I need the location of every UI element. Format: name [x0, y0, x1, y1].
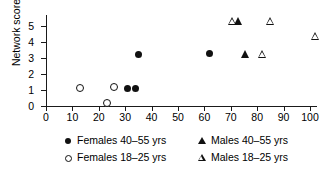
data-point [258, 50, 266, 58]
legend-label: Males 18–25 yrs [211, 152, 288, 163]
data-point [311, 32, 319, 40]
data-point [241, 50, 249, 58]
data-point [206, 50, 213, 57]
y-tick-label-1: 1 [8, 85, 34, 96]
data-point [135, 51, 142, 58]
x-axis-line [46, 106, 317, 107]
legend-label: Females 40–55 yrs [77, 135, 166, 146]
y-tick-label-4: 4 [8, 37, 34, 48]
y-tick-label-5: 5 [8, 21, 34, 32]
filled-triangle-icon [196, 135, 208, 147]
data-point [76, 84, 84, 92]
data-point [228, 17, 236, 25]
open-circle-icon [62, 152, 74, 164]
data-point [110, 83, 118, 91]
legend-item: Males 40–55 yrs [196, 132, 288, 149]
y-tick-label-0: 0 [8, 101, 34, 112]
legend-label: Females 18–25 yrs [77, 152, 166, 163]
x-tick-label-100: 100 [295, 112, 325, 123]
legend-label: Males 40–55 yrs [211, 135, 288, 146]
filled-circle-icon [62, 135, 74, 147]
chart-legend: Females 40–55 yrsFemales 18–25 yrs Males… [0, 132, 333, 168]
legend-column-males: Males 40–55 yrsMales 18–25 yrs [196, 132, 288, 166]
open-triangle-icon [196, 152, 208, 164]
plot-area [46, 17, 314, 105]
data-point [132, 85, 139, 92]
y-tick-label-3: 3 [8, 53, 34, 64]
data-point [124, 85, 131, 92]
legend-item: Males 18–25 yrs [196, 149, 288, 166]
legend-item: Females 40–55 yrs [62, 132, 166, 149]
data-point [266, 17, 274, 25]
legend-column-females: Females 40–55 yrsFemales 18–25 yrs [62, 132, 166, 166]
legend-item: Females 18–25 yrs [62, 149, 166, 166]
y-tick-label-2: 2 [8, 69, 34, 80]
scatter-chart-figure: Network score 012345 0102030405060708090… [0, 0, 333, 171]
